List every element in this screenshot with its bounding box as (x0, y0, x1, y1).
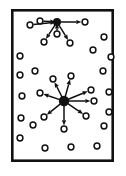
figure-container (0, 0, 126, 176)
spoke-node-bot-spoke-w (37, 90, 43, 96)
isolated-node-iso-16 (68, 144, 74, 150)
node-core (69, 42, 71, 44)
spoke-node-bot-spoke-sw (41, 114, 47, 120)
node-core (52, 78, 54, 80)
node-graph-diagram (0, 0, 126, 176)
outer-border-rectangle (12, 10, 112, 160)
node-core (96, 145, 98, 147)
node-core (34, 70, 36, 72)
node-core (102, 70, 104, 72)
node-core (29, 24, 31, 26)
isolated-node-iso-5 (32, 68, 38, 74)
isolated-node-iso-11 (106, 109, 112, 115)
isolated-node-iso-12 (30, 122, 36, 128)
node-core (108, 111, 110, 113)
hub-node-hub-bottom (59, 96, 69, 106)
node-core (32, 124, 34, 126)
node-core (20, 117, 22, 119)
isolated-node-iso-1 (101, 34, 107, 40)
isolated-node-iso-15 (42, 145, 48, 151)
hub-node-hub-top (53, 18, 61, 26)
node-core (21, 95, 23, 97)
spoke-node-top-spoke-nw (37, 18, 43, 24)
isolated-node-iso-13 (101, 123, 107, 129)
spoke-node-top-spoke-s (54, 31, 60, 37)
node-core (19, 74, 21, 76)
node-core (70, 75, 72, 77)
spoke-node-top-spoke-sw (41, 39, 47, 45)
node-core (93, 100, 95, 102)
node-core (84, 21, 86, 23)
node-core (103, 125, 105, 127)
spoke-node-bot-spoke-ene (91, 98, 97, 104)
node-core (110, 56, 112, 58)
isolated-node-iso-6 (100, 68, 106, 74)
node-core (39, 92, 41, 94)
node-core (43, 116, 45, 118)
node-core (43, 41, 45, 43)
isolated-node-iso-4 (108, 54, 114, 60)
isolated-node-iso-7 (17, 72, 23, 78)
node-core (19, 55, 21, 57)
spoke-node-bot-spoke-nnw (50, 76, 56, 82)
spoke-node-bot-spoke-n (68, 73, 74, 79)
isolated-node-iso-8 (19, 93, 25, 99)
node-core (19, 137, 21, 139)
node-core (108, 91, 110, 93)
spoke-node-top-spoke-se (67, 40, 73, 46)
node-core (90, 89, 92, 91)
node-core (39, 20, 41, 22)
node-core (63, 128, 65, 130)
isolated-node-iso-3 (90, 47, 96, 53)
spoke-node-top-spoke-w (27, 22, 33, 28)
isolated-node-iso-2 (17, 53, 23, 59)
spoke-node-bot-spoke-ne (88, 87, 94, 93)
node-core (103, 36, 105, 38)
spoke-node-bot-spoke-se (83, 113, 89, 119)
node-core (92, 49, 94, 51)
isolated-node-iso-10 (18, 115, 24, 121)
isolated-node-iso-17 (94, 143, 100, 149)
spoke-node-top-spoke-e (82, 19, 88, 25)
node-core (44, 147, 46, 149)
spoke-node-bot-spoke-s (61, 126, 67, 132)
isolated-node-iso-9 (106, 89, 112, 95)
isolated-node-iso-14 (17, 135, 23, 141)
frame-layer (12, 10, 112, 160)
node-core (56, 33, 58, 35)
node-core (70, 146, 72, 148)
node-core (85, 115, 87, 117)
